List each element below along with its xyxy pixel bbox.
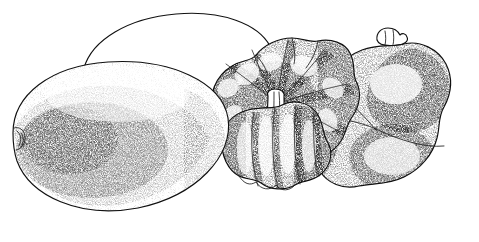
- botanical-illustration-svg: [0, 0, 479, 242]
- illustration-plate: Cucurbita fruit forms pen-and-ink stippl…: [0, 0, 479, 242]
